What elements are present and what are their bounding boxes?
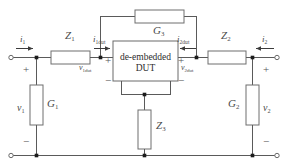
terminal-port1-top[interactable] xyxy=(9,55,13,59)
current-arrow-i2 xyxy=(256,46,274,51)
component-z1-impedance xyxy=(51,51,90,64)
dut-label-line1: de-embedded xyxy=(113,52,178,63)
label-g2: G2 xyxy=(228,98,239,109)
current-arrow-i1 xyxy=(16,46,33,51)
component-g1-conductance xyxy=(30,85,43,125)
junction-node-dut-right xyxy=(195,56,199,60)
label-z3: Z3 xyxy=(156,120,166,131)
polarity-minus-port1: − xyxy=(23,136,29,147)
polarity-plus-v2dut: + xyxy=(178,55,184,66)
circuit-schematic-svg xyxy=(0,0,288,165)
label-g3: G3 xyxy=(153,25,164,36)
label-current-i2: i2 xyxy=(262,35,267,44)
wire-dut-bottom-left-return xyxy=(121,81,145,95)
polarity-minus-port2: − xyxy=(263,136,269,147)
label-voltage-v2: v2 xyxy=(263,103,271,113)
junction-node-dut-return xyxy=(143,93,147,97)
circuit-diagram-canvas: Z1 Z2 Z3 G1 G2 G3 i1 i1dut i2dut i2 v1 v… xyxy=(0,0,288,165)
junction-node-right-bottom xyxy=(251,154,255,158)
current-arrow-i2dut xyxy=(180,46,196,51)
junction-node-dut-left xyxy=(99,56,103,60)
polarity-minus-v1dut: − xyxy=(105,75,111,86)
polarity-minus-v2dut: − xyxy=(178,75,184,86)
terminal-port2-bottom[interactable] xyxy=(275,153,279,157)
current-arrow-i1dut xyxy=(94,46,110,51)
label-current-i2dut: i2dut xyxy=(177,35,189,44)
label-z2: Z2 xyxy=(221,30,231,41)
terminal-port2-top[interactable] xyxy=(275,55,279,59)
junction-node-left-bottom xyxy=(35,154,39,158)
polarity-plus-port2: + xyxy=(263,64,269,75)
label-g1: G1 xyxy=(47,98,58,109)
polarity-plus-port1: + xyxy=(23,64,29,75)
label-current-i1: i1 xyxy=(20,35,25,44)
junction-node-center-bottom xyxy=(143,154,147,158)
label-voltage-v1dut: v1dut xyxy=(79,64,91,72)
dut-label-line2: DUT xyxy=(113,63,178,74)
label-current-i1dut: i1dut xyxy=(93,35,105,44)
component-z3-impedance xyxy=(138,110,151,149)
junction-node-right-top xyxy=(251,56,255,60)
component-g3-resistor xyxy=(135,10,184,23)
label-z1: Z1 xyxy=(65,30,75,41)
label-voltage-v1: v1 xyxy=(17,103,25,113)
terminal-port1-bottom[interactable] xyxy=(9,153,13,157)
junction-node-left-top xyxy=(35,56,39,60)
component-g2-conductance xyxy=(246,85,259,125)
wire-dut-bottom-right-return xyxy=(145,81,171,95)
component-z2-impedance xyxy=(208,51,246,64)
polarity-plus-v1dut: + xyxy=(105,55,111,66)
